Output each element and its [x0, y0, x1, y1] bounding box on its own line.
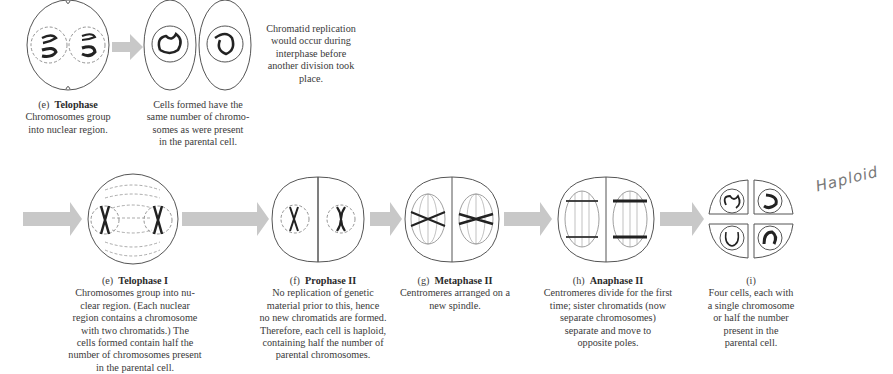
caption-line: present in the: [696, 325, 806, 337]
anaphase-ii-cells: [558, 177, 654, 262]
caption-metaphase-ii: (g) Metaphase II Centromeres arranged on…: [395, 275, 515, 312]
caption-line: in the parental cell.: [138, 136, 258, 148]
arrow-icon: [182, 202, 269, 236]
caption-line: containing half the number of: [248, 337, 398, 349]
caption-line: Chromosomes group: [8, 111, 128, 123]
stage-letter: (f): [290, 275, 300, 286]
caption-line: a single chromosome: [696, 300, 806, 312]
caption-line: with two chromatids.) The: [60, 325, 210, 337]
note-chromatid-replication: Chromatid replication would occur during…: [256, 23, 366, 85]
caption-line: separate and move to: [538, 325, 678, 337]
caption-line: or half the number: [696, 312, 806, 324]
caption-prophase-ii: (f) Prophase II No replication of geneti…: [248, 275, 398, 362]
telophase-cell-top: [27, 0, 109, 90]
caption-line: Therefore, each cell is haploid,: [248, 325, 398, 337]
stage-letter: (e): [102, 275, 113, 286]
caption-four-cells: (i) Four cells, each with a single chrom…: [696, 275, 806, 349]
prophase-ii-cells: [272, 177, 364, 262]
stage-name: Metaphase II: [434, 275, 492, 286]
stage-letter: (g): [418, 275, 430, 286]
caption-line: place.: [256, 73, 366, 85]
metaphase-ii-cells: [405, 177, 499, 262]
stage-letter: (h): [573, 275, 585, 286]
daughter-cells-top: [144, 0, 251, 90]
caption-line: another division took: [256, 60, 366, 72]
caption-line: Chromatid replication: [256, 23, 366, 35]
telophase-i-cell: [88, 174, 178, 264]
caption-line: No replication of genetic: [248, 287, 398, 299]
four-haploid-cells: [709, 180, 793, 258]
caption-daughter-cells-top: Cells formed have the same number of chr…: [138, 99, 258, 149]
caption-line: in the parental cell.: [60, 362, 210, 374]
caption-anaphase-ii: (h) Anaphase II Centromeres divide for t…: [538, 275, 678, 349]
arrow-icon: [23, 202, 82, 236]
caption-line: no new chromatids are formed.: [248, 312, 398, 324]
stage-letter: (e): [38, 99, 49, 110]
caption-line: into nuclear region.: [8, 124, 128, 136]
arrow-icon: [504, 202, 552, 236]
caption-line: material prior to this, hence: [248, 300, 398, 312]
caption-line: Centromeres divide for the first: [538, 287, 678, 299]
stage-name: Telophase I: [118, 275, 168, 286]
caption-line: time; sister chromatids (now: [538, 300, 678, 312]
caption-line: Four cells, each with: [696, 287, 806, 299]
caption-line: interphase before: [256, 48, 366, 60]
caption-line: Centromeres arranged on a: [395, 287, 515, 299]
caption-line: region contains a chromosome: [60, 312, 210, 324]
caption-line: Cells formed have the: [138, 99, 258, 111]
caption-line: somes as were present: [138, 124, 258, 136]
caption-line: parental cell.: [696, 337, 806, 349]
caption-line: Chromosomes group into nu-: [60, 287, 210, 299]
stage-name: Telophase: [55, 99, 98, 110]
arrow-icon: [660, 202, 704, 236]
caption-telophase-i: (e) Telophase I Chromosomes group into n…: [60, 275, 210, 374]
stage-letter: (i): [696, 275, 806, 287]
arrow-icon: [370, 202, 402, 236]
caption-line: same number of chromo-: [138, 111, 258, 123]
caption-line: cells formed contain half the: [60, 337, 210, 349]
arrow-icon: [112, 34, 143, 60]
stage-name: Anaphase II: [590, 275, 644, 286]
caption-line: opposite poles.: [538, 337, 678, 349]
caption-line: parental chromosomes.: [248, 349, 398, 361]
caption-telophase-top: (e) Telophase Chromosomes group into nuc…: [8, 99, 128, 136]
caption-line: separate chromosomes): [538, 312, 678, 324]
caption-line: would occur during: [256, 35, 366, 47]
caption-line: clear region. (Each nuclear: [60, 300, 210, 312]
stage-name: Prophase II: [305, 275, 356, 286]
caption-line: new spindle.: [395, 300, 515, 312]
caption-line: number of chromosomes present: [60, 349, 210, 361]
